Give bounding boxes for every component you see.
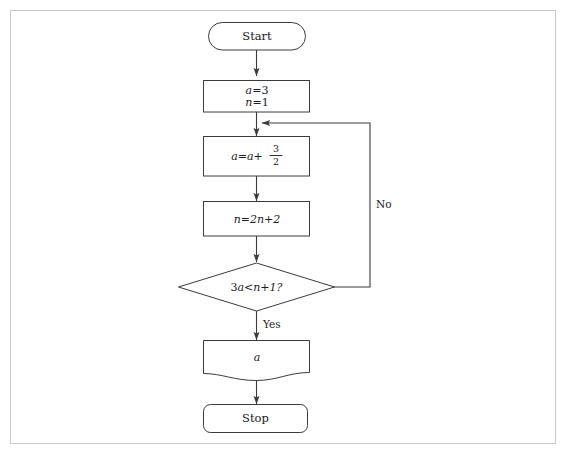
update-a-fraction-denominator: 2: [273, 156, 279, 167]
edge-label-yes: Yes: [262, 318, 281, 330]
init-line2-op: =: [252, 96, 261, 109]
node-decision-expression: 3a<n+1?: [231, 281, 283, 294]
decision-op: <: [244, 281, 253, 294]
update-n-rhs: 2n+2: [249, 213, 280, 226]
node-stop-label: Stop: [242, 411, 269, 425]
flowchart-figure: Start a=3 n=1 a=a+ 3 2 n=2n+2 3a<n+1? a: [0, 0, 568, 456]
node-update-a-expression: a=a+: [231, 150, 263, 163]
node-output-label: a: [254, 351, 261, 364]
node-update-n-expression: n=2n+2: [234, 213, 281, 226]
update-a-plus: +: [254, 150, 263, 163]
decision-lhs-num: 3: [231, 281, 238, 294]
init-line1-rhs: 3: [261, 84, 268, 97]
init-line2-lhs: n: [245, 96, 252, 109]
node-init-line1: a=3: [246, 84, 269, 97]
update-a-op: =: [238, 150, 247, 163]
flowchart-canvas: Start a=3 n=1 a=a+ 3 2 n=2n+2 3a<n+1? a: [0, 0, 568, 456]
edge-label-no: No: [376, 198, 392, 210]
update-a-fraction-numerator: 3: [273, 143, 279, 154]
init-line2-rhs: 1: [262, 96, 269, 109]
node-init-line2: n=1: [245, 96, 268, 109]
update-n-lhs: n: [234, 213, 241, 226]
update-n-op: =: [241, 213, 250, 226]
init-line1-op: =: [252, 84, 261, 97]
decision-rhs: n+1?: [253, 281, 282, 294]
node-start-label: Start: [242, 29, 272, 43]
